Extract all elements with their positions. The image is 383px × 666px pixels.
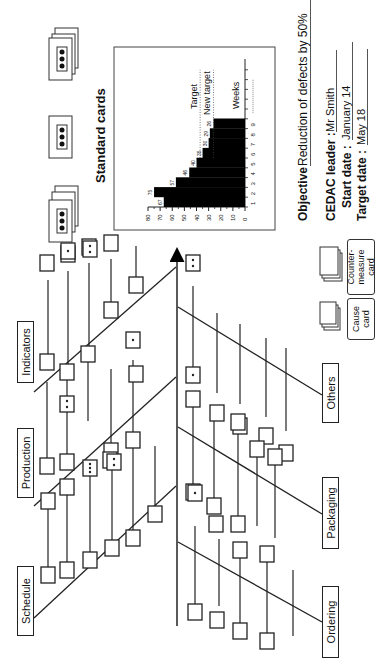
cedac-leader-value: Mr Smith: [324, 50, 337, 132]
start-date-label: Start date :: [340, 145, 354, 208]
legend-countermeasure-line1: Counter-: [346, 250, 356, 285]
target-date-label: Target date :: [355, 150, 369, 221]
objective-value: Reduction of defects by 50%: [296, 0, 311, 166]
start-date-value: January 14: [340, 42, 353, 140]
cedac-leader-label: CEDAC leader :: [324, 132, 338, 221]
legend-cause-line2: card: [361, 310, 371, 328]
objective-label: Objective: [296, 167, 310, 221]
rotated-diagram-canvas: 6775574640353029260102030405060708012345…: [0, 0, 383, 666]
legend-cause-line1: Cause: [351, 306, 361, 332]
legend-countermeasure-card: Counter- measure card: [347, 239, 375, 295]
legend-cause-card: Cause card: [347, 298, 375, 340]
target-date-value: May 18: [355, 49, 368, 145]
legend-countermeasure-line2: measure card: [356, 240, 376, 294]
